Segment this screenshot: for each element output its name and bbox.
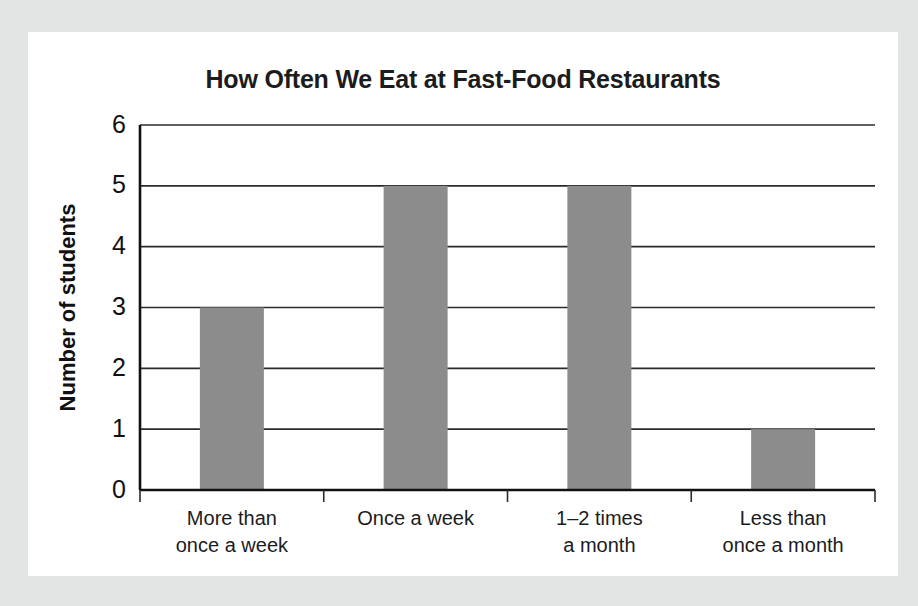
x-tick-label-line: Less than xyxy=(740,507,827,529)
x-tick-label: Less thanonce a month xyxy=(723,507,844,556)
y-tick-label: 5 xyxy=(112,170,126,198)
y-tick-label: 3 xyxy=(112,292,126,320)
bar xyxy=(384,186,448,490)
x-tick-marks-group xyxy=(140,490,875,502)
x-tick-label-line: a month xyxy=(563,534,635,556)
bars-group xyxy=(200,186,815,490)
bar xyxy=(200,308,264,491)
x-tick-label-line: once a week xyxy=(176,534,289,556)
x-tick-label-line: once a month xyxy=(723,534,844,556)
y-tick-label: 0 xyxy=(112,475,126,503)
y-axis-title-group: Number of students xyxy=(55,204,80,412)
y-tick-labels-group: 0123456 xyxy=(112,110,126,503)
screenshot-page: How Often We Eat at Fast-Food Restaurant… xyxy=(0,0,918,606)
x-tick-label-line: 1–2 times xyxy=(556,507,643,529)
y-tick-label: 6 xyxy=(112,110,126,138)
bar xyxy=(751,429,815,490)
y-tick-label: 1 xyxy=(112,414,126,442)
x-tick-labels-group: More thanonce a weekOnce a week1–2 times… xyxy=(176,507,844,556)
x-tick-label-line: More than xyxy=(187,507,277,529)
y-axis-title: Number of students xyxy=(55,204,80,412)
y-tick-label: 2 xyxy=(112,353,126,381)
x-tick-label: 1–2 timesa month xyxy=(556,507,643,556)
x-tick-label: More thanonce a week xyxy=(176,507,289,556)
x-tick-label-line: Once a week xyxy=(357,507,475,529)
bar xyxy=(567,186,631,490)
x-tick-label: Once a week xyxy=(357,507,475,529)
y-tick-label: 4 xyxy=(112,231,126,259)
bar-chart-plot: 0123456 More thanonce a weekOnce a week1… xyxy=(0,0,918,606)
chart-card: How Often We Eat at Fast-Food Restaurant… xyxy=(28,32,898,576)
